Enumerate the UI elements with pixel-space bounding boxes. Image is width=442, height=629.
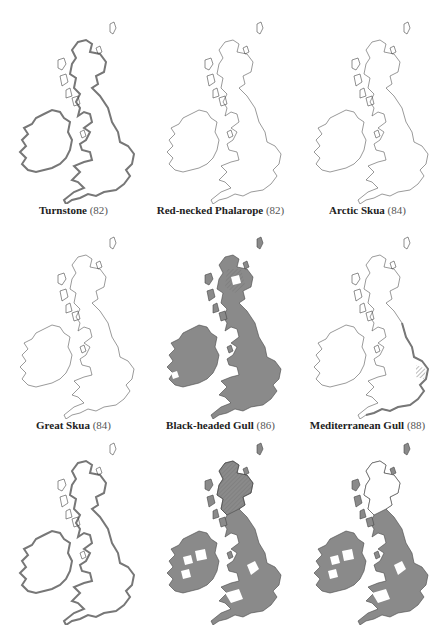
island-shape xyxy=(227,130,233,138)
island-shape xyxy=(213,509,219,519)
island-shape xyxy=(207,74,215,86)
island-shape xyxy=(213,88,219,98)
island-shape xyxy=(213,303,219,313)
species-number: (82) xyxy=(266,204,284,216)
absence-area xyxy=(195,549,207,561)
island-shape xyxy=(205,273,213,285)
ireland-shape xyxy=(167,531,219,593)
island-shape xyxy=(227,551,233,559)
uk-ireland-map xyxy=(0,219,147,419)
uk-ireland-map xyxy=(147,425,294,625)
island-shape xyxy=(243,46,249,54)
island-shape xyxy=(243,261,249,269)
island-shape xyxy=(354,74,362,86)
island-shape xyxy=(390,261,396,269)
island-shape xyxy=(72,311,80,321)
species-name: Red-necked Phalarope xyxy=(157,204,263,216)
species-map-panel-6 xyxy=(0,425,147,629)
island-shape xyxy=(360,88,366,98)
species-map-panel-8 xyxy=(294,425,441,629)
uk-ireland-map xyxy=(294,4,441,204)
species-number: (84) xyxy=(388,204,406,216)
ireland-shape xyxy=(167,110,219,172)
island-shape xyxy=(352,479,360,491)
great-britain-shape xyxy=(64,40,134,204)
island-shape xyxy=(96,261,102,269)
species-map-panel-7 xyxy=(147,425,294,629)
island-shape xyxy=(66,509,72,519)
island-shape xyxy=(58,273,66,285)
island-shape xyxy=(60,289,68,301)
great-britain-shape xyxy=(64,255,134,419)
uk-ireland-map xyxy=(147,4,294,204)
island-shape xyxy=(257,22,263,34)
island-shape xyxy=(60,495,68,507)
species-map-panel-1: Red-necked Phalarope (82) xyxy=(147,4,294,214)
island-shape xyxy=(352,273,360,285)
island-shape xyxy=(110,443,116,455)
species-map-panel-4: Black-headed Gull (86) xyxy=(147,219,294,429)
species-map-panel-2: Arctic Skua (84) xyxy=(294,4,441,214)
species-map-panel-3: Great Skua (84) xyxy=(0,219,147,429)
island-shape xyxy=(60,74,68,86)
great-britain-shape xyxy=(358,40,428,204)
absence-area xyxy=(342,549,354,561)
island-shape xyxy=(207,495,215,507)
species-name: Turnstone xyxy=(39,204,87,216)
hatched-area xyxy=(416,365,426,379)
island-shape xyxy=(205,58,213,70)
island-shape xyxy=(66,303,72,313)
island-shape xyxy=(80,551,86,559)
great-britain-shape xyxy=(211,255,281,419)
uk-ireland-map xyxy=(0,4,147,204)
ireland-shape xyxy=(314,531,366,593)
island-shape xyxy=(227,345,233,353)
uk-ireland-map xyxy=(294,219,441,419)
island-shape xyxy=(366,311,374,321)
island-shape xyxy=(205,479,213,491)
map-caption: Turnstone (82) xyxy=(0,204,147,216)
map-caption: Arctic Skua (84) xyxy=(294,204,441,216)
island-shape xyxy=(404,443,410,455)
island-shape xyxy=(354,495,362,507)
island-shape xyxy=(257,237,263,249)
great-britain-shape xyxy=(358,255,428,419)
uk-ireland-map xyxy=(294,425,441,625)
island-shape xyxy=(80,130,86,138)
ireland-shape xyxy=(20,110,72,172)
species-number: (82) xyxy=(90,204,108,216)
island-shape xyxy=(374,130,380,138)
island-shape xyxy=(243,467,249,475)
island-shape xyxy=(360,509,366,519)
island-shape xyxy=(390,46,396,54)
island-shape xyxy=(390,467,396,475)
map-caption: Red-necked Phalarope (82) xyxy=(147,204,294,216)
island-shape xyxy=(352,58,360,70)
island-shape xyxy=(404,22,410,34)
great-britain-shape xyxy=(211,40,281,204)
uk-ireland-map xyxy=(0,425,147,625)
great-britain-shape xyxy=(64,461,134,625)
species-map-panel-5: Mediterranean Gull (88) xyxy=(294,219,441,429)
island-shape xyxy=(366,96,374,106)
island-shape xyxy=(110,22,116,34)
island-shape xyxy=(207,289,215,301)
ireland-shape xyxy=(314,110,366,172)
island-shape xyxy=(257,443,263,455)
island-shape xyxy=(360,303,366,313)
species-map-panel-0: Turnstone (82) xyxy=(0,4,147,214)
island-shape xyxy=(219,96,227,106)
island-shape xyxy=(58,58,66,70)
island-shape xyxy=(374,345,380,353)
island-shape xyxy=(80,345,86,353)
island-shape xyxy=(374,551,380,559)
island-shape xyxy=(110,237,116,249)
island-shape xyxy=(354,289,362,301)
island-shape xyxy=(66,88,72,98)
ireland-shape xyxy=(20,325,72,387)
species-name: Arctic Skua xyxy=(329,204,385,216)
ireland-shape xyxy=(20,531,72,593)
ireland-shape xyxy=(314,325,366,387)
uk-ireland-map xyxy=(147,219,294,419)
island-shape xyxy=(58,479,66,491)
